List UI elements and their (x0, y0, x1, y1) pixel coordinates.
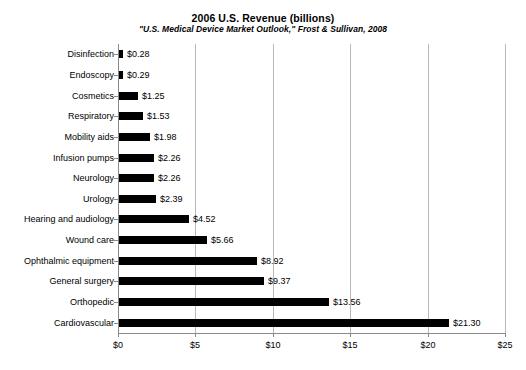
bar (119, 92, 138, 100)
bar (119, 319, 449, 327)
bar-value-label: $0.28 (127, 49, 150, 59)
chart-row: Neurology$2.26 (0, 168, 526, 189)
x-axis-tick-label: $10 (265, 340, 280, 350)
y-axis-tick (114, 323, 118, 324)
y-axis-tick (114, 158, 118, 159)
x-axis-tick (195, 333, 196, 337)
chart-row: Respiratory$1.53 (0, 106, 526, 127)
category-label: Ophthalmic equipment (24, 256, 114, 266)
bar (119, 71, 123, 79)
page-title: 2006 U.S. Revenue (billions) (0, 12, 526, 24)
chart-row: Cardiovascular$21.30 (0, 312, 526, 333)
bar (119, 174, 154, 182)
chart-row: Ophthalmic equipment$8.92 (0, 250, 526, 271)
x-axis-tick (350, 333, 351, 337)
bar-value-label: $2.39 (160, 194, 183, 204)
x-axis-tick (273, 333, 274, 337)
bar-value-label: $2.26 (158, 153, 181, 163)
category-label: Endoscopy (69, 70, 114, 80)
y-axis-tick (114, 75, 118, 76)
chart-row: Endoscopy$0.29 (0, 65, 526, 86)
category-label: Cosmetics (72, 91, 114, 101)
category-label: Infusion pumps (53, 153, 114, 163)
y-axis-tick (114, 219, 118, 220)
y-axis-tick (114, 96, 118, 97)
bar (119, 112, 143, 120)
bar (119, 195, 156, 203)
chart-title-block: 2006 U.S. Revenue (billions) "U.S. Medic… (0, 12, 526, 35)
bar-value-label: $5.66 (211, 235, 234, 245)
chart-row: General surgery$9.37 (0, 271, 526, 292)
bar-value-label: $1.25 (142, 91, 165, 101)
y-axis-tick (114, 54, 118, 55)
chart-row: Infusion pumps$2.26 (0, 147, 526, 168)
bar (119, 277, 264, 285)
x-axis-tick-label: $20 (420, 340, 435, 350)
chart-row: Cosmetics$1.25 (0, 85, 526, 106)
category-label: Urology (83, 194, 114, 204)
bar (119, 50, 123, 58)
bar-value-label: $2.26 (158, 173, 181, 183)
bar (119, 154, 154, 162)
bar-chart: 2006 U.S. Revenue (billions) "U.S. Medic… (0, 0, 526, 370)
x-axis-tick-label: $25 (497, 340, 512, 350)
y-axis-tick (114, 261, 118, 262)
x-axis-tick-label: $5 (190, 340, 200, 350)
y-axis-tick (114, 281, 118, 282)
category-label: Hearing and audiology (24, 214, 114, 224)
x-axis-tick-label: $0 (113, 340, 123, 350)
category-label: Mobility aids (64, 132, 114, 142)
bar (119, 236, 207, 244)
y-axis-tick (114, 116, 118, 117)
category-label: General surgery (49, 276, 114, 286)
x-axis-line (118, 333, 506, 334)
chart-row: Disinfection$0.28 (0, 44, 526, 65)
chart-row: Wound care$5.66 (0, 230, 526, 251)
chart-row: Hearing and audiology$4.52 (0, 209, 526, 230)
category-label: Disinfection (67, 49, 114, 59)
bar-value-label: $13.56 (333, 297, 361, 307)
category-label: Wound care (66, 235, 114, 245)
chart-row: Orthopedic$13.56 (0, 292, 526, 313)
x-axis-tick (118, 333, 119, 337)
bar (119, 257, 257, 265)
y-axis-tick (114, 302, 118, 303)
bar-value-label: $1.53 (147, 111, 170, 121)
x-axis-tick-label: $15 (342, 340, 357, 350)
category-label: Cardiovascular (54, 318, 114, 328)
bar-value-label: $0.29 (127, 70, 150, 80)
y-axis-tick (114, 199, 118, 200)
chart-row: Mobility aids$1.98 (0, 127, 526, 148)
bar-value-label: $8.92 (261, 256, 284, 266)
x-axis-tick (428, 333, 429, 337)
category-label: Neurology (73, 173, 114, 183)
category-label: Orthopedic (70, 297, 114, 307)
bar (119, 133, 150, 141)
chart-row: Urology$2.39 (0, 189, 526, 210)
x-axis-tick (505, 333, 506, 337)
bar-value-label: $21.30 (453, 318, 481, 328)
bar-value-label: $4.52 (193, 214, 216, 224)
y-axis-tick (114, 240, 118, 241)
chart-subtitle: "U.S. Medical Device Market Outlook," Fr… (0, 25, 526, 35)
bar (119, 298, 329, 306)
bar-value-label: $1.98 (154, 132, 177, 142)
category-label: Respiratory (68, 111, 114, 121)
y-axis-tick (114, 178, 118, 179)
bar (119, 215, 189, 223)
bar-value-label: $9.37 (268, 276, 291, 286)
y-axis-tick (114, 137, 118, 138)
